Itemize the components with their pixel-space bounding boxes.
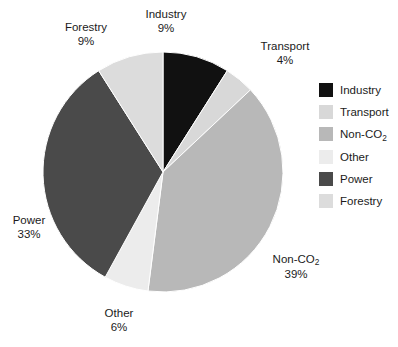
legend-swatch-industry bbox=[319, 83, 333, 97]
legend-swatch-non-co2 bbox=[319, 127, 333, 141]
slice-label-name: Power bbox=[0, 214, 89, 228]
legend-swatch-forestry bbox=[319, 194, 333, 208]
legend-swatch-transport bbox=[319, 105, 333, 119]
legend-item-forestry[interactable]: Forestry bbox=[319, 190, 398, 212]
slice-label-percent: 33% bbox=[0, 228, 89, 242]
slice-label-name: Forestry bbox=[26, 21, 146, 35]
legend-label-other: Other bbox=[340, 151, 369, 163]
slice-label-percent: 9% bbox=[26, 35, 146, 49]
legend-item-non-co2[interactable]: Non-CO2 bbox=[319, 123, 398, 145]
slice-label-forestry: Forestry9% bbox=[26, 21, 146, 48]
slice-label-transport: Transport4% bbox=[225, 40, 345, 67]
legend-label-non-co2: Non-CO2 bbox=[340, 128, 387, 140]
slice-label-non-co2: Non-CO239% bbox=[236, 253, 356, 281]
legend-item-other[interactable]: Other bbox=[319, 146, 398, 168]
slice-label-name: Other bbox=[59, 307, 179, 321]
pie-chart-figure: Industry9%Transport4%Non-CO239%Other6%Po… bbox=[0, 0, 398, 347]
legend-item-transport[interactable]: Transport bbox=[319, 101, 398, 123]
slice-label-name: Industry bbox=[106, 8, 226, 22]
legend-label-forestry: Forestry bbox=[340, 195, 382, 207]
slice-label-name: Non-CO2 bbox=[236, 253, 356, 268]
slice-label-power: Power33% bbox=[0, 214, 89, 241]
legend-swatch-other bbox=[319, 150, 333, 164]
legend-item-power[interactable]: Power bbox=[319, 168, 398, 190]
chart-legend: IndustryTransportNon-CO2OtherPowerForest… bbox=[319, 79, 398, 212]
legend-label-industry: Industry bbox=[340, 84, 381, 96]
legend-swatch-power bbox=[319, 172, 333, 186]
slice-label-percent: 39% bbox=[236, 268, 356, 282]
legend-item-industry[interactable]: Industry bbox=[319, 79, 398, 101]
slice-label-percent: 4% bbox=[225, 54, 345, 68]
slice-label-name: Transport bbox=[225, 40, 345, 54]
slice-label-percent: 6% bbox=[59, 321, 179, 335]
slice-label-other: Other6% bbox=[59, 307, 179, 334]
legend-label-power: Power bbox=[340, 173, 373, 185]
legend-label-transport: Transport bbox=[340, 106, 389, 118]
